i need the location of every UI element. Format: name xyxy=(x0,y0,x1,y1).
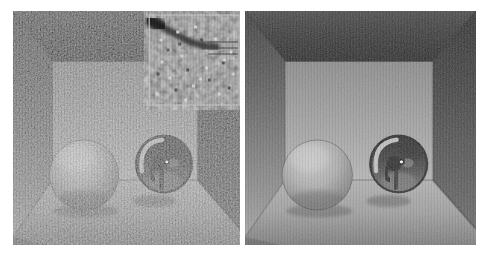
denoised-render-image xyxy=(245,11,476,245)
subtle-grain-overlay xyxy=(245,11,476,245)
noise-inset xyxy=(149,15,239,105)
panel-denoised-render xyxy=(245,11,476,245)
panel-noisy-render xyxy=(13,11,240,245)
figure-container xyxy=(0,0,481,260)
cornell-box-scene xyxy=(245,11,476,245)
noisy-render-image xyxy=(13,11,240,245)
